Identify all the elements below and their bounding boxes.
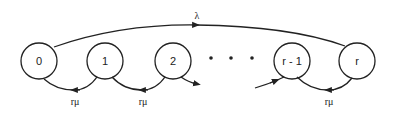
node-r-label: r [355,55,359,67]
arc-2-to-1: rμ [112,77,165,107]
node-2: 2 [155,43,191,79]
lambda-label: λ [195,10,200,21]
arc-1-to-0: rμ [44,77,97,107]
stub-from-2 [181,77,197,84]
stub-into-r-minus-1 [255,77,284,88]
lambda-arc: λ [54,10,345,47]
node-0: 0 [21,43,57,79]
node-1-label: 1 [102,55,108,67]
node-0-label: 0 [36,55,42,67]
markov-chain-diagram: λ 0 1 2 r - 1 r rμ rμ [0,0,396,117]
rate-label-r-r1: rμ [325,96,334,107]
rate-label-2-1: rμ [139,96,148,107]
rate-label-1-0: rμ [71,96,80,107]
ellipsis-dots [209,56,254,60]
node-1: 1 [87,43,123,79]
node-r: r [339,43,375,79]
node-r-minus-1-label: r - 1 [282,55,302,67]
node-2-label: 2 [170,55,176,67]
arc-r-to-r-minus-1: rμ [297,77,352,107]
node-r-minus-1: r - 1 [274,43,310,79]
